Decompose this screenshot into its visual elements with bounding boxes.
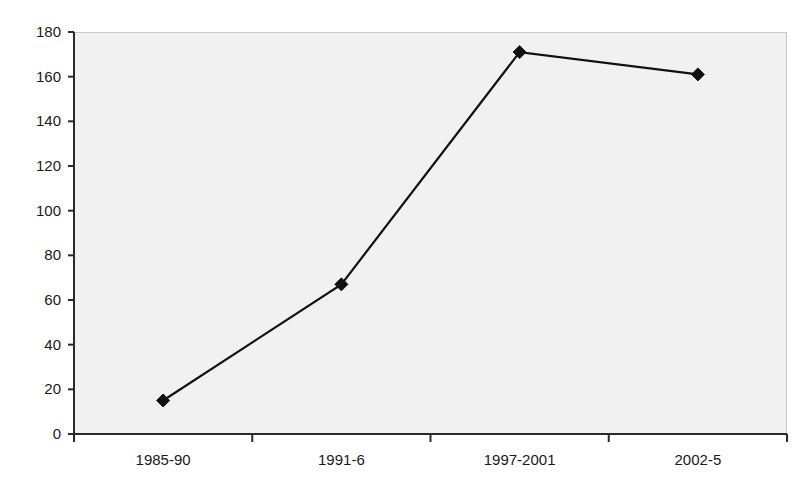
plot-area-background xyxy=(74,32,787,434)
y-axis-tick-labels: 020406080100120140160180 xyxy=(36,23,61,442)
y-axis-tick-label: 20 xyxy=(44,380,61,397)
x-axis-tick-label: 1985-90 xyxy=(136,451,191,468)
y-axis-tick-label: 140 xyxy=(36,112,61,129)
y-axis-tick-label: 100 xyxy=(36,202,61,219)
x-axis-tick-label: 2002-5 xyxy=(675,451,722,468)
y-axis-tick-label: 80 xyxy=(44,246,61,263)
x-axis-tick-label: 1991-6 xyxy=(318,451,365,468)
y-axis-tick-label: 180 xyxy=(36,23,61,40)
chart-canvas: 020406080100120140160180 1985-901991-619… xyxy=(0,0,811,491)
line-chart: 020406080100120140160180 1985-901991-619… xyxy=(0,0,811,491)
x-axis-ticks xyxy=(74,434,787,442)
y-axis-tick-label: 120 xyxy=(36,157,61,174)
y-axis-tick-label: 60 xyxy=(44,291,61,308)
x-axis-tick-labels: 1985-901991-61997-20012002-5 xyxy=(136,451,722,468)
x-axis-tick-label: 1997-2001 xyxy=(484,451,556,468)
y-axis-tick-label: 40 xyxy=(44,336,61,353)
y-axis-tick-label: 160 xyxy=(36,68,61,85)
y-axis-tick-label: 0 xyxy=(53,425,61,442)
